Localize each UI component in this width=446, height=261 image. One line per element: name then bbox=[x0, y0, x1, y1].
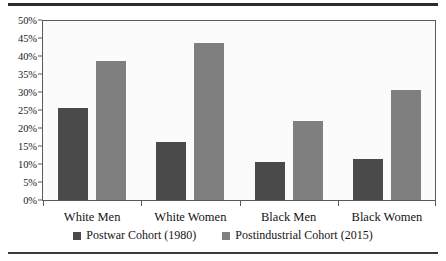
y-axis-tick-mark bbox=[38, 20, 42, 21]
legend-swatch-icon bbox=[73, 232, 81, 240]
y-axis-tick-mark bbox=[38, 92, 42, 93]
bottom-rule bbox=[8, 252, 438, 254]
x-axis-category-label: White Women bbox=[154, 210, 226, 225]
y-axis-tick-label: 10% bbox=[2, 159, 42, 170]
legend-item: Postwar Cohort (1980) bbox=[73, 228, 196, 243]
y-axis-tick-mark bbox=[38, 56, 42, 57]
figure-container: 0%5%10%15%20%25%30%35%40%45%50% White Me… bbox=[0, 0, 446, 261]
y-axis-tick-label: 20% bbox=[2, 123, 42, 134]
y-axis-tick-label: 15% bbox=[2, 141, 42, 152]
bar-chart: 0%5%10%15%20%25%30%35%40%45%50% White Me… bbox=[0, 14, 446, 210]
chart-legend: Postwar Cohort (1980)Postindustrial Coho… bbox=[0, 228, 446, 243]
bar bbox=[293, 121, 323, 200]
bar bbox=[156, 142, 186, 200]
bar bbox=[391, 90, 421, 200]
y-axis-tick-label: 40% bbox=[2, 51, 42, 62]
y-axis-tick-mark bbox=[38, 74, 42, 75]
x-axis-tick-mark bbox=[435, 201, 436, 206]
x-axis-labels: White MenWhite WomenBlack MenBlack Women bbox=[43, 210, 436, 230]
y-axis-tick-label: 30% bbox=[2, 87, 42, 98]
legend-label: Postindustrial Cohort (2015) bbox=[235, 228, 372, 243]
top-rule bbox=[8, 3, 438, 6]
legend-label: Postwar Cohort (1980) bbox=[86, 228, 196, 243]
bar bbox=[58, 108, 88, 200]
x-axis-tick-mark bbox=[240, 201, 241, 206]
y-axis-tick-mark bbox=[38, 128, 42, 129]
legend-item: Postindustrial Cohort (2015) bbox=[222, 228, 372, 243]
y-axis-tick-mark bbox=[38, 200, 42, 201]
bar bbox=[255, 162, 285, 200]
x-axis-tick-mark bbox=[338, 201, 339, 206]
x-axis-ticks bbox=[43, 201, 436, 207]
bars-group bbox=[43, 20, 436, 200]
bar bbox=[194, 43, 224, 200]
x-axis-tick-mark bbox=[141, 201, 142, 206]
bar bbox=[353, 159, 383, 200]
x-axis-category-label: White Men bbox=[64, 210, 121, 225]
y-axis-tick-label: 35% bbox=[2, 69, 42, 80]
y-axis-tick-mark bbox=[38, 146, 42, 147]
y-axis-tick-label: 0% bbox=[2, 195, 42, 206]
y-axis-tick-label: 25% bbox=[2, 105, 42, 116]
y-axis-tick-label: 50% bbox=[2, 15, 42, 26]
y-axis-tick-label: 5% bbox=[2, 177, 42, 188]
x-axis-category-label: Black Women bbox=[352, 210, 423, 225]
y-axis-tick-label: 45% bbox=[2, 33, 42, 44]
x-axis-tick-mark bbox=[43, 201, 44, 206]
x-axis-category-label: Black Men bbox=[261, 210, 316, 225]
y-axis-tick-mark bbox=[38, 164, 42, 165]
y-axis-tick-mark bbox=[38, 38, 42, 39]
bar bbox=[96, 61, 126, 200]
y-axis-tick-mark bbox=[38, 182, 42, 183]
legend-swatch-icon bbox=[222, 232, 230, 240]
y-axis-tick-mark bbox=[38, 110, 42, 111]
